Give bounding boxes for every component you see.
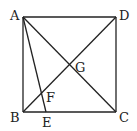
label-F: F — [46, 90, 55, 105]
label-E: E — [42, 115, 52, 130]
label-A: A — [9, 8, 20, 23]
segment-AE — [23, 17, 46, 112]
geometry-diagram: A D B C E F G — [0, 0, 137, 131]
label-G: G — [75, 60, 85, 75]
label-B: B — [10, 110, 20, 125]
label-D: D — [119, 8, 129, 23]
label-C: C — [119, 110, 129, 125]
